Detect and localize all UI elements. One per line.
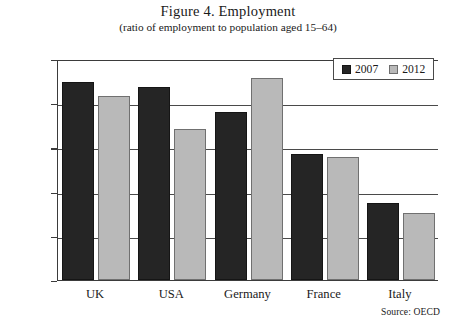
bar-italy-2012[interactable]: [403, 213, 435, 280]
legend-swatch-2007: [342, 65, 351, 74]
bar-group: [291, 61, 359, 280]
bar-usa-2007[interactable]: [138, 87, 170, 280]
legend-entry-2012[interactable]: 2012: [389, 64, 425, 75]
bar-group: [138, 61, 206, 280]
bar-germany-2007[interactable]: [215, 112, 247, 280]
bar-series-container: [58, 61, 438, 280]
figure-employment: Figure 4. Employment (ratio of employmen…: [0, 0, 456, 333]
bar-uk-2007[interactable]: [62, 82, 94, 280]
bar-usa-2012[interactable]: [174, 129, 206, 280]
legend-swatch-2012: [389, 65, 398, 74]
bar-group: [367, 61, 435, 280]
legend-label-2012: 2012: [402, 64, 425, 75]
bar-group: [62, 61, 130, 280]
bar-uk-2012[interactable]: [98, 96, 130, 280]
bar-group: [215, 61, 283, 280]
bar-france-2007[interactable]: [291, 154, 323, 280]
y-axis-tick-mark: [51, 281, 57, 282]
bar-italy-2007[interactable]: [367, 203, 399, 280]
plot-area: [57, 60, 438, 281]
bar-germany-2012[interactable]: [251, 78, 283, 280]
legend-entry-2007[interactable]: 2007: [342, 64, 378, 75]
x-axis-tick-label-italy: Italy: [340, 287, 456, 301]
bar-france-2012[interactable]: [327, 157, 359, 280]
figure-subtitle: (ratio of employment to population aged …: [0, 20, 456, 34]
figure-title: Figure 4. Employment: [0, 3, 456, 20]
legend: 20072012: [333, 58, 434, 80]
source-note: Source: OECD: [381, 306, 440, 317]
title-block: Figure 4. Employment (ratio of employmen…: [0, 3, 456, 34]
legend-label-2007: 2007: [355, 64, 378, 75]
